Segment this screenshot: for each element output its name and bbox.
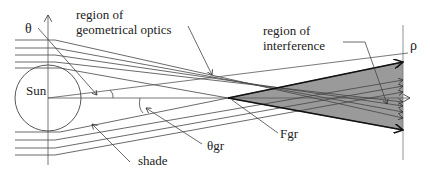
theta-gr-pointer [146, 108, 202, 144]
shade-label: shade [138, 153, 168, 168]
theta-gr-label: θgr [207, 138, 225, 153]
geo-optics-label-line1: region of [76, 7, 124, 22]
interference-label-line2: interference [263, 38, 325, 53]
sun-label: Sun [26, 83, 47, 98]
geo-optics-pointer [188, 26, 212, 75]
theta-angle-arc [110, 90, 113, 98]
shade-pointer [92, 124, 130, 162]
theta-label: θ [25, 21, 32, 36]
theta-gr-angle-arc [139, 98, 143, 113]
fgr-label: Fgr [280, 126, 299, 141]
gravitational-lens-diagram: θ region of geometrical optics region of… [0, 0, 430, 175]
geo-optics-label-line2: geometrical optics [76, 22, 172, 37]
interference-label-line1: region of [263, 23, 311, 38]
theta-pointer [38, 28, 97, 95]
rho-label: ρ [410, 38, 417, 53]
